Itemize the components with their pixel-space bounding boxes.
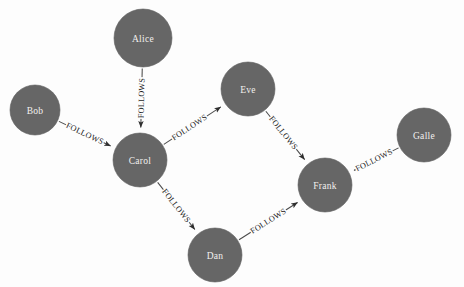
graph-svg: FOLLOWSFOLLOWSFOLLOWSFOLLOWSFOLLOWSFOLLO… <box>0 0 464 287</box>
edge-label-group: FOLLOWS <box>159 186 193 226</box>
edge-label-group: FOLLOWS <box>248 205 289 237</box>
edge-label: FOLLOWS <box>65 121 106 147</box>
graph-canvas: FOLLOWSFOLLOWSFOLLOWSFOLLOWSFOLLOWSFOLLO… <box>0 0 464 287</box>
node-label: Frank <box>313 181 337 191</box>
edge-label-group: FOLLOWS <box>353 146 395 175</box>
node-label: Bob <box>27 106 44 116</box>
graph-node-alice[interactable]: Alice <box>114 9 172 67</box>
graph-node-bob[interactable]: Bob <box>10 85 60 135</box>
node-label: Carol <box>129 156 152 166</box>
graph-node-dan[interactable]: Dan <box>188 228 242 282</box>
graph-node-frank[interactable]: Frank <box>298 158 352 212</box>
edge-label-group: FOLLOWS <box>266 113 301 152</box>
node-label: Dan <box>207 251 224 261</box>
edge-label: FOLLOWS <box>267 114 299 151</box>
node-label: Galle <box>413 131 435 141</box>
node-label: Eve <box>240 85 256 95</box>
edge-label-group: FOLLOWS <box>136 77 148 119</box>
edge-label: FOLLOWS <box>170 113 209 143</box>
edge-label-group: FOLLOWS <box>64 120 106 148</box>
graph-node-galle[interactable]: Galle <box>397 108 451 162</box>
nodes-layer: AliceBobEveCarolGalleFrankDan <box>10 9 451 282</box>
edge-label: FOLLOWS <box>160 187 192 224</box>
edge-label-group: FOLLOWS <box>169 111 210 143</box>
node-label: Alice <box>132 34 154 44</box>
edge-label: FOLLOWS <box>137 77 147 118</box>
graph-node-carol[interactable]: Carol <box>113 133 167 187</box>
edge-label: FOLLOWS <box>249 206 288 235</box>
edge-label: FOLLOWS <box>354 147 394 173</box>
graph-node-eve[interactable]: Eve <box>221 62 275 116</box>
